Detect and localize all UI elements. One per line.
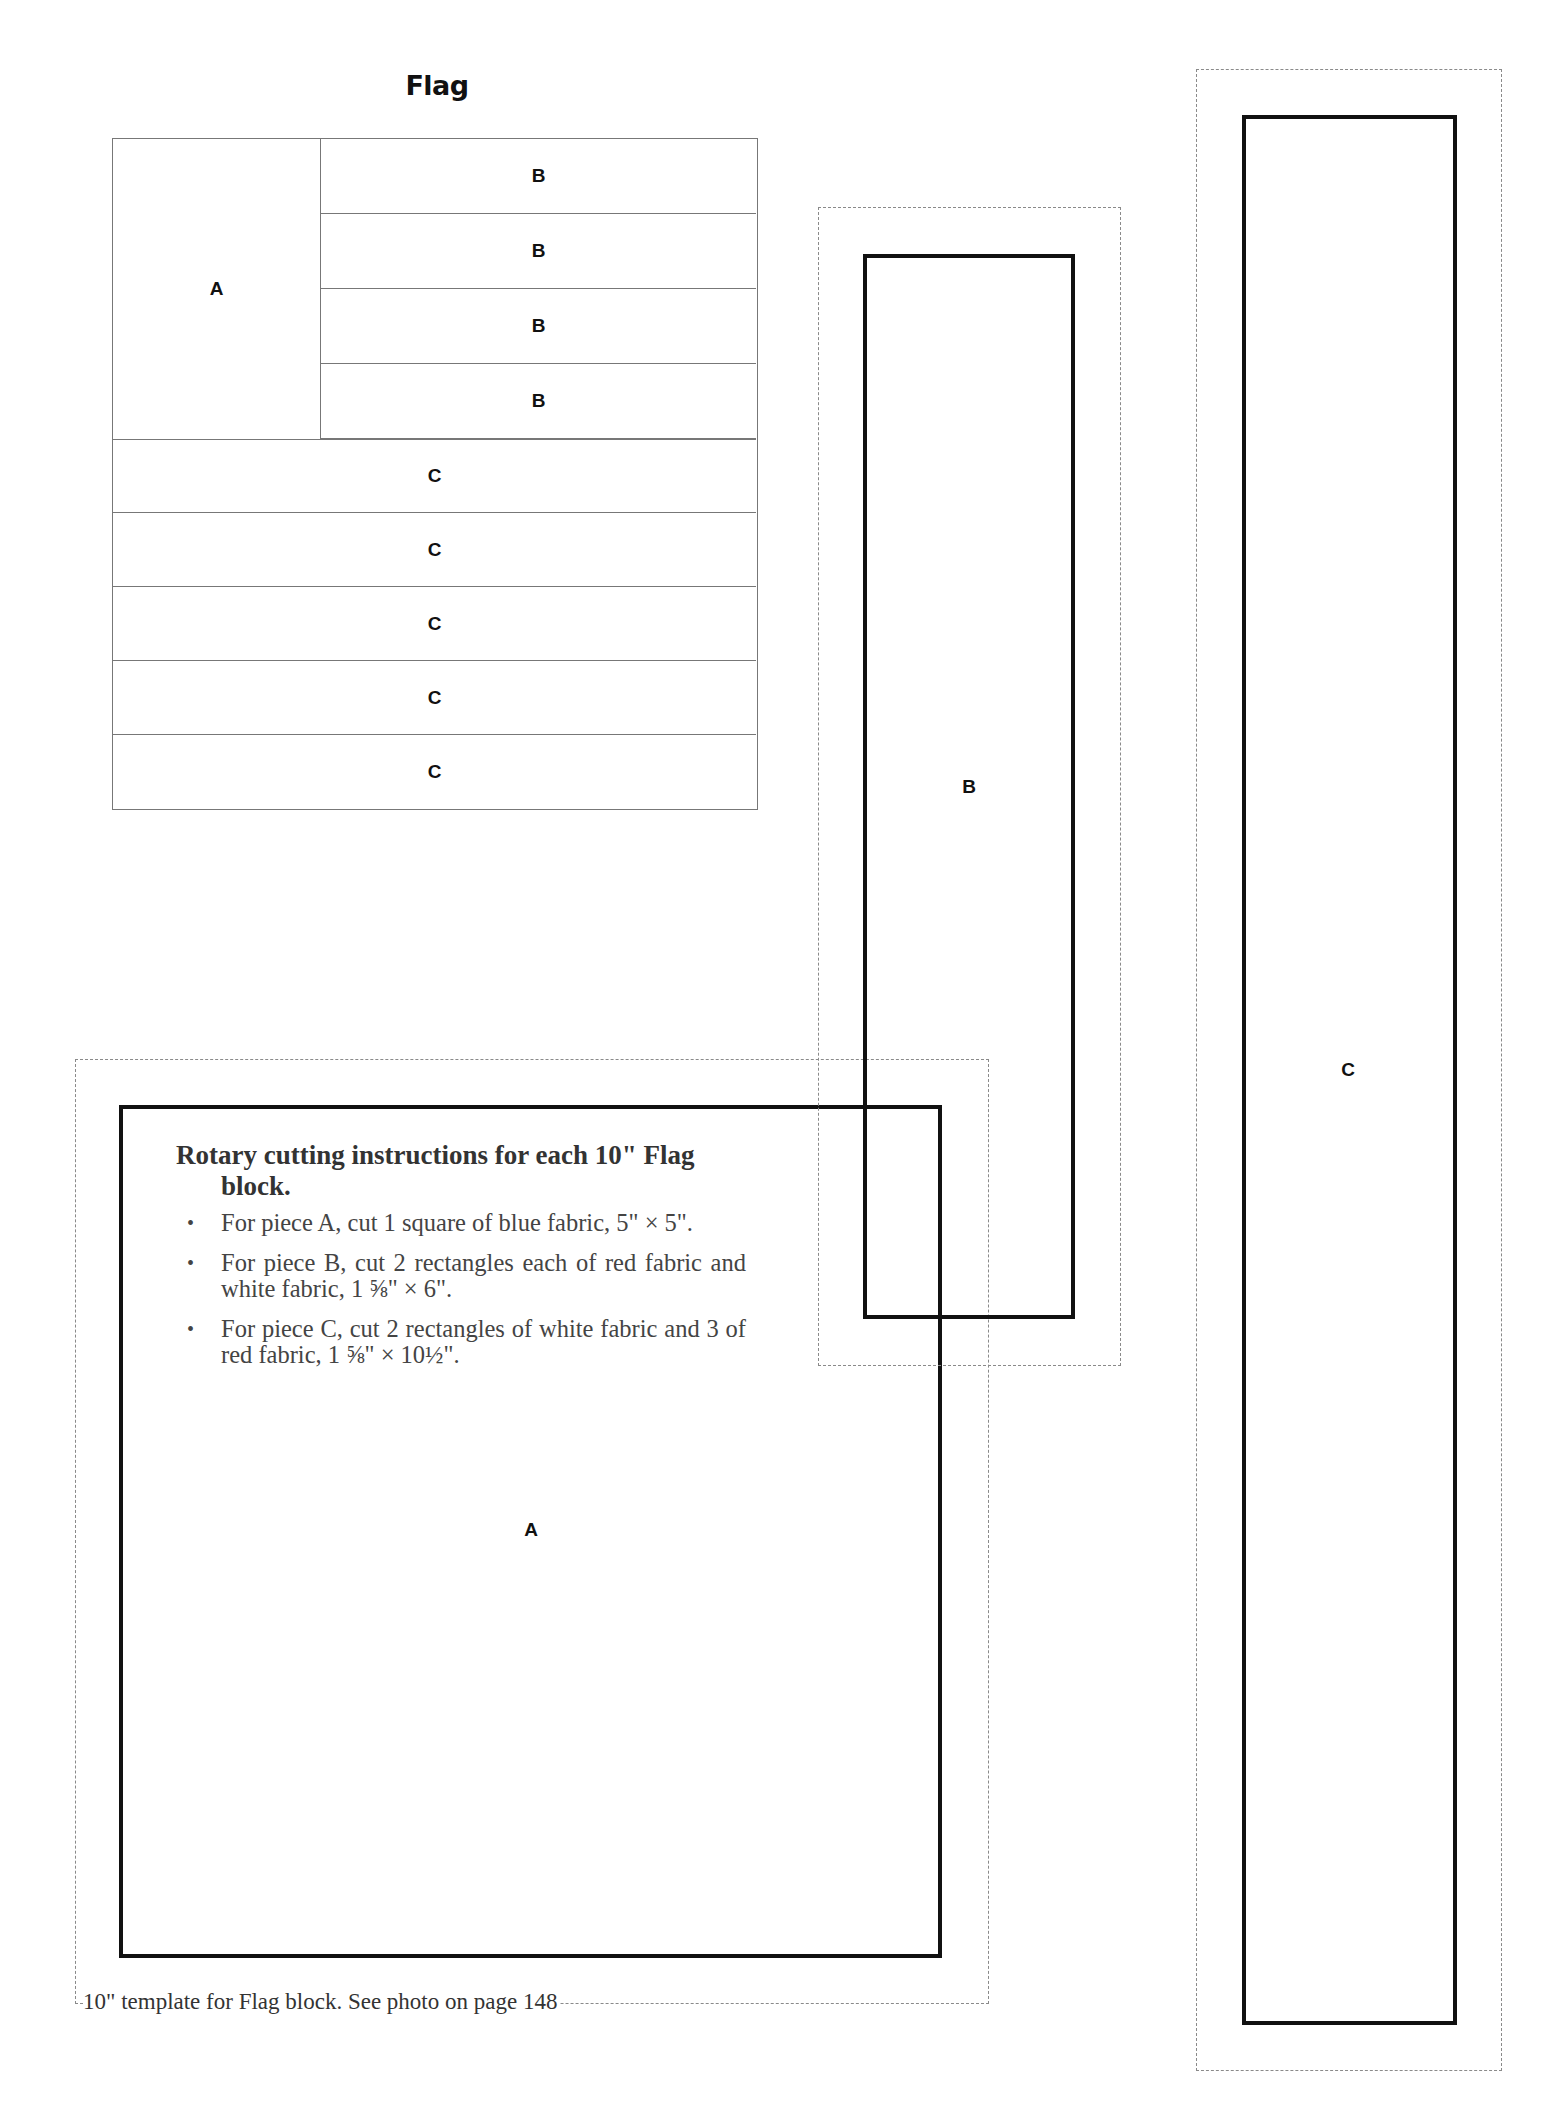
instruction-text: For piece A, cut 1 square of blue fabric… (221, 1209, 693, 1236)
instruction-text: For piece C, cut 2 rectangles of white f… (221, 1315, 746, 1368)
flag-cell-b-label: B (532, 390, 546, 412)
page-title: Flag (0, 70, 874, 101)
instruction-item: • For piece B, cut 2 rectangles each of … (176, 1250, 746, 1302)
flag-cell-a: A (113, 139, 321, 439)
instructions-list: • For piece A, cut 1 square of blue fabr… (176, 1210, 746, 1368)
flag-cell-b-label: B (532, 240, 546, 262)
flag-cell-b-3: B (321, 289, 756, 364)
cutting-instructions: Rotary cutting instructions for each 10"… (176, 1140, 746, 1382)
flag-cell-c-label: C (428, 465, 442, 487)
flag-cell-a-label: A (210, 278, 224, 300)
flag-cell-b-1: B (321, 139, 756, 214)
flag-cell-c-1: C (113, 439, 756, 513)
bullet-icon: • (187, 1316, 194, 1342)
instruction-text: For piece B, cut 2 rectangles each of re… (221, 1249, 746, 1302)
flag-cell-c-label: C (428, 687, 442, 709)
flag-cell-c-5: C (113, 735, 756, 809)
flag-block-diagram: A B B B B C C C C C (112, 138, 758, 810)
template-b-label: B (962, 776, 976, 798)
bullet-icon: • (187, 1250, 194, 1276)
flag-cell-c-3: C (113, 587, 756, 661)
flag-cell-b-label: B (532, 165, 546, 187)
flag-cell-c-label: C (428, 761, 442, 783)
instruction-item: • For piece A, cut 1 square of blue fabr… (176, 1210, 746, 1236)
template-a-label: A (524, 1519, 538, 1541)
template-c-label: C (1341, 1059, 1355, 1081)
flag-cell-c-2: C (113, 513, 756, 587)
flag-cell-c-4: C (113, 661, 756, 735)
flag-cell-b-4: B (321, 364, 756, 439)
template-caption: 10" template for Flag block. See photo o… (83, 1989, 559, 2015)
bullet-icon: • (187, 1210, 194, 1236)
instruction-item: • For piece C, cut 2 rectangles of white… (176, 1316, 746, 1368)
flag-cell-c-label: C (428, 613, 442, 635)
flag-cell-c-label: C (428, 539, 442, 561)
flag-cell-b-label: B (532, 315, 546, 337)
flag-cell-b-2: B (321, 214, 756, 289)
instructions-heading: Rotary cutting instructions for each 10"… (176, 1140, 746, 1202)
